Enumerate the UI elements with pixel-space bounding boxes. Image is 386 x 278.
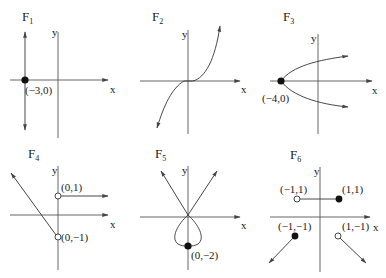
y-axis-label: y [182,28,188,40]
point-label: (−1,1) [280,183,308,196]
filled-point [292,233,299,240]
panel-title: F3 [283,9,294,26]
point-label: (1,−1) [342,220,370,233]
panel-title: F2 [152,9,163,26]
panel-title: F6 [290,147,301,164]
x-axis-label: x [241,219,247,231]
parabola-lower-branch [281,81,348,107]
filled-point [21,76,28,83]
open-point [55,193,61,199]
panel-title: F5 [155,146,166,163]
cubic-curve [157,26,220,128]
panel-f1: F1 y x (−3,0) [10,9,116,138]
panel-title: F1 [22,9,33,26]
panel-f2: F2 y x [140,9,247,134]
x-axis-label: x [241,83,247,95]
point-label: (0,−2) [191,249,219,262]
function-graphs-figure: F1 y x (−3,0) F2 y x F3 y x (−4,0) F4 y … [0,0,386,278]
right-down-ray [340,238,366,263]
y-axis-label: y [52,26,58,38]
panel-f3: F3 y x (−4,0) [262,9,378,134]
parabola-upper-branch [281,56,348,81]
point-label: (−1,−1) [278,220,312,233]
panel-f4: F4 y x (0,1) (0,−1) [10,146,116,270]
y-axis-label: y [182,164,188,176]
point-label: (0,1) [61,181,82,194]
point-label: (0,−1) [61,231,89,244]
x-axis-label: x [372,84,378,96]
open-point [294,196,300,202]
point-label: (−3,0) [25,84,53,97]
left-down-ray [269,236,295,263]
panel-f6: F6 y x (−1,1) (1,1) (−1,−1) (1,−1) [269,147,379,272]
open-point [335,233,341,239]
y-axis-label: y [314,165,320,177]
filled-point [336,196,343,203]
point-label: (1,1) [342,183,363,196]
x-axis-label: x [110,218,116,230]
decreasing-ray [11,173,56,235]
panel-f5: F5 y x (0,−2) [140,146,247,270]
panel-title: F4 [28,146,39,163]
y-axis-label: y [311,32,317,44]
y-axis-label: y [52,164,58,176]
x-axis-label: x [373,221,379,233]
point-label: (−4,0) [262,92,290,105]
left-ray [161,171,188,215]
filled-point [277,77,284,84]
right-ray [188,171,217,215]
x-axis-label: x [110,83,116,95]
